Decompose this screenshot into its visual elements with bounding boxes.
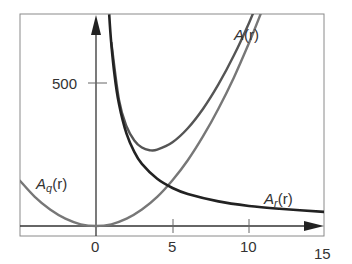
label-Aq: Aq(r) bbox=[35, 175, 67, 194]
series-Aq bbox=[20, 13, 262, 226]
label-Ar: Ar(r) bbox=[263, 190, 293, 209]
x-tick-label-0: 0 bbox=[91, 238, 99, 255]
chart-canvas: 500 0 5 10 15 A(r) Aq(r) Ar(r) bbox=[0, 0, 352, 264]
x-tick-label-15: 15 bbox=[314, 245, 331, 262]
x-tick-label-10: 10 bbox=[240, 238, 257, 255]
label-A: A(r) bbox=[233, 26, 259, 43]
y-tick-label-500: 500 bbox=[52, 75, 77, 92]
x-tick-label-5: 5 bbox=[168, 238, 176, 255]
y-axis-arrow-icon bbox=[91, 15, 101, 35]
x-axis-arrow-icon bbox=[304, 221, 324, 231]
